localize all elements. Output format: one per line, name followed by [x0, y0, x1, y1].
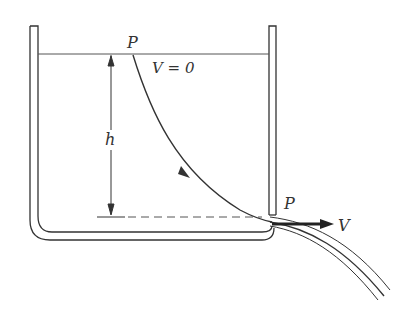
outlet-velocity-arrow	[272, 219, 334, 229]
outlet-velocity-label: V	[338, 216, 351, 235]
outlet-point-label: P	[283, 194, 295, 213]
water-jet	[270, 217, 390, 300]
tank-diagram: P V = 0 h P V	[0, 0, 410, 309]
top-point-label: P	[126, 33, 138, 52]
streamline-arrow-icon	[178, 166, 190, 178]
top-velocity-label: V = 0	[152, 59, 195, 77]
streamline-curve	[133, 55, 272, 222]
tank-right-wall	[269, 26, 276, 215]
height-label: h	[105, 130, 115, 149]
